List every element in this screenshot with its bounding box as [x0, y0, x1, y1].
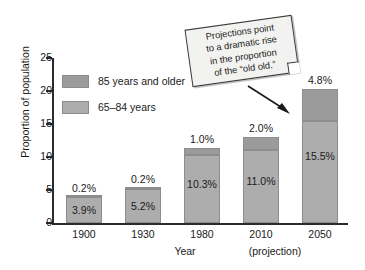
x-tick-label-1980: 1980 — [172, 228, 232, 240]
x-axis-title: Year — [155, 245, 215, 257]
legend-label-65-84: 65–84 years — [98, 101, 156, 114]
x-tick-label-2010: 2010 — [231, 228, 291, 240]
bar-label-65-84-1930: 5.2% — [126, 200, 160, 212]
y-tick-label-25: 25 — [28, 52, 52, 62]
callout-fold-corner — [287, 61, 301, 75]
bar-segment-85-plus-1900[interactable] — [66, 195, 102, 197]
y-tick-label-15: 15 — [28, 118, 52, 128]
x-axis-line — [52, 223, 348, 225]
bar-label-85-plus-1930: 0.2% — [117, 173, 169, 185]
projection-axis-note: (projection) — [230, 245, 320, 257]
y-tick-label-0: 0 — [28, 217, 52, 227]
bar-label-85-plus-2050: 4.8% — [294, 74, 346, 86]
bar-segment-65-84-1980[interactable]: 10.3% — [184, 155, 220, 223]
bar-segment-85-plus-1980[interactable] — [184, 148, 220, 155]
bar-label-65-84-2010: 11.0% — [244, 175, 278, 187]
y-tick-label-10: 10 — [28, 151, 52, 161]
bar-label-85-plus-1900: 0.2% — [58, 182, 110, 194]
bar-chart: Proportion of population 0 5 10 15 20 25… — [0, 0, 365, 270]
bar-segment-65-84-1930[interactable]: 5.2% — [125, 189, 161, 223]
older-swatch-icon — [62, 75, 89, 88]
bar-label-65-84-1980: 10.3% — [185, 178, 219, 190]
y-tick-label-20: 20 — [28, 85, 52, 95]
younger-swatch-icon — [62, 101, 89, 114]
x-tick-label-1900: 1900 — [54, 228, 114, 240]
legend-label-85-plus: 85 years and older — [98, 75, 185, 88]
bar-segment-85-plus-2010[interactable] — [243, 137, 279, 150]
bar-label-65-84-1900: 3.9% — [67, 204, 101, 216]
bar-segment-65-84-2010[interactable]: 11.0% — [243, 150, 279, 223]
x-tick-label-2050: 2050 — [290, 228, 350, 240]
bar-segment-85-plus-2050[interactable] — [302, 89, 338, 121]
callout-arrow-icon — [246, 84, 296, 118]
bar-segment-65-84-1900[interactable]: 3.9% — [66, 197, 102, 223]
x-tick-label-1930: 1930 — [113, 228, 173, 240]
y-tick-label-5: 5 — [28, 184, 52, 194]
bar-segment-65-84-2050[interactable]: 15.5% — [302, 121, 338, 223]
bar-label-85-plus-2010: 2.0% — [235, 122, 287, 134]
bar-label-65-84-2050: 15.5% — [303, 150, 337, 162]
bar-segment-85-plus-1930[interactable] — [125, 187, 161, 189]
bar-label-85-plus-1980: 1.0% — [176, 133, 228, 145]
